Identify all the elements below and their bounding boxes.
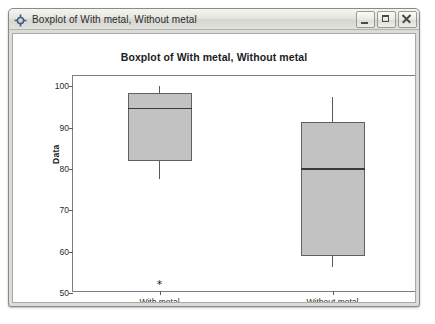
chart-client-area: Boxplot of With metal, Without metal Dat… bbox=[12, 33, 416, 303]
box-iqr[interactable] bbox=[301, 122, 365, 256]
x-tick-mark bbox=[333, 291, 334, 295]
window-title: Boxplot of With metal, Without metal bbox=[32, 14, 354, 25]
x-tick-label: With metal bbox=[139, 297, 179, 303]
minitab-crosshair-icon bbox=[14, 13, 27, 26]
minimize-icon bbox=[361, 22, 368, 24]
plot-frame: Data 5060708090100 With metalWithout met… bbox=[72, 75, 416, 292]
x-tick-mark bbox=[160, 291, 161, 295]
close-button[interactable] bbox=[398, 11, 417, 28]
whisker-lower bbox=[332, 256, 333, 266]
median-line bbox=[301, 168, 365, 170]
boxplot-window: Boxplot of With metal, Without metal Box… bbox=[8, 8, 420, 307]
boxplot-without-metal[interactable] bbox=[73, 76, 416, 291]
y-tick-label: 80 bbox=[60, 164, 69, 174]
y-tick-label: 50 bbox=[60, 288, 69, 298]
boxplot-chart: Boxplot of With metal, Without metal Dat… bbox=[13, 34, 415, 302]
y-tick-label: 70 bbox=[60, 205, 69, 215]
title-bar[interactable]: Boxplot of With metal, Without metal bbox=[9, 9, 419, 30]
y-tick-mark bbox=[69, 293, 73, 294]
y-axis-label: Data bbox=[51, 144, 61, 164]
maximize-icon bbox=[382, 15, 389, 22]
y-tick-label: 90 bbox=[60, 123, 69, 133]
minimize-button[interactable] bbox=[356, 11, 375, 28]
chart-title: Boxplot of With metal, Without metal bbox=[13, 51, 415, 63]
y-tick-label: 60 bbox=[60, 247, 69, 257]
whisker-upper bbox=[332, 97, 333, 122]
maximize-button[interactable] bbox=[377, 11, 396, 28]
x-tick-label: Without metal bbox=[307, 297, 359, 303]
y-tick-label: 100 bbox=[55, 81, 69, 91]
